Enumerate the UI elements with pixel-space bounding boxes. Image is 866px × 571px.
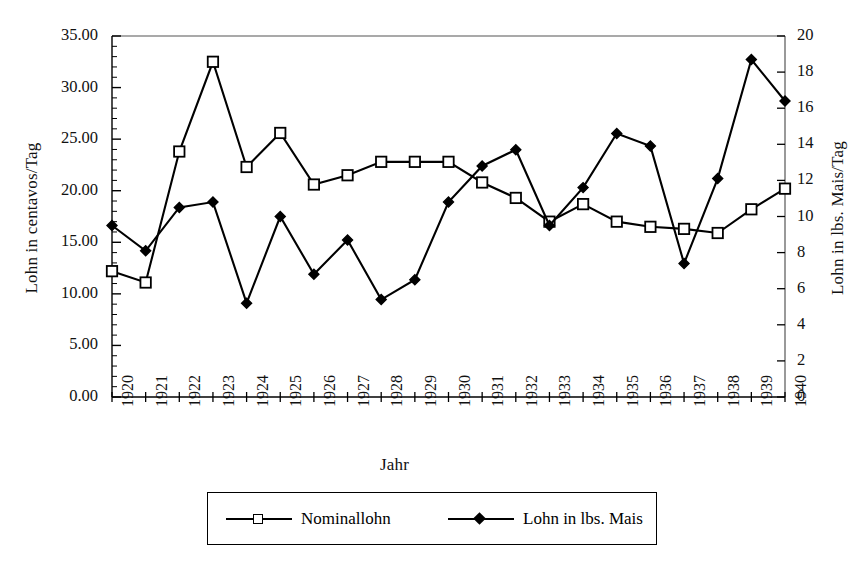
- legend-marker-filled-diamond-icon: [448, 512, 514, 526]
- x-axis-tick-label: 1924: [254, 375, 272, 407]
- y-axis-right-tick-label: 12: [797, 169, 837, 189]
- x-axis-tick-label: 1923: [220, 375, 238, 407]
- x-axis-tick-label: 1940: [792, 375, 810, 407]
- x-axis-tick-label: 1928: [388, 375, 406, 407]
- y-axis-left-tick-label: 25.00: [26, 128, 98, 148]
- x-axis-tick-label: 1925: [287, 375, 305, 407]
- y-axis-right-tick-label: 4: [797, 314, 837, 334]
- x-axis-tick-label: 1934: [590, 375, 608, 407]
- y-axis-right-tick-label: 6: [797, 278, 837, 298]
- x-axis-tick-label: 1929: [422, 375, 440, 407]
- legend-item-nominallohn: Nominallohn: [226, 509, 391, 529]
- legend-label: Nominallohn: [301, 509, 391, 529]
- x-axis-tick-label: 1926: [321, 375, 339, 407]
- y-axis-right-tick-label: 16: [797, 97, 837, 117]
- x-axis-tick-label: 1920: [119, 375, 137, 407]
- y-axis-left-tick-label: 30.00: [26, 77, 98, 97]
- x-axis-tick-label: 1922: [186, 375, 204, 407]
- y-axis-right-tick-label: 2: [797, 350, 837, 370]
- y-axis-right-tick-label: 20: [797, 25, 837, 45]
- y-axis-left-tick-label: 0.00: [26, 386, 98, 406]
- y-axis-right-tick-label: 14: [797, 133, 837, 153]
- x-axis-tick-label: 1937: [691, 375, 709, 407]
- x-axis-tick-label: 1935: [624, 375, 642, 407]
- x-axis-tick-label: 1921: [153, 375, 171, 407]
- x-axis-tick-label: 1933: [556, 375, 574, 407]
- chart-legend: Nominallohn Lohn in lbs. Mais: [207, 492, 657, 545]
- y-axis-left-tick-label: 15.00: [26, 231, 98, 251]
- y-axis-left-title: Lohn in centavos/Tag: [22, 88, 42, 348]
- x-axis-tick-label: 1927: [355, 375, 373, 407]
- legend-marker-open-square-icon: [226, 512, 292, 526]
- x-axis-tick-label: 1931: [489, 375, 507, 407]
- x-axis-tick-label: 1936: [657, 375, 675, 407]
- legend-item-lohn-in-lbs-mais: Lohn in lbs. Mais: [448, 509, 643, 529]
- chart-figure: Lohn in centavos/Tag Lohn in lbs. Mais/T…: [0, 0, 866, 571]
- x-axis-tick-label: 1932: [523, 375, 541, 407]
- y-axis-left-tick-label: 35.00: [26, 25, 98, 45]
- plot-area: [0, 0, 866, 571]
- y-axis-left-tick-label: 10.00: [26, 283, 98, 303]
- x-axis-tick-label: 1939: [758, 375, 776, 407]
- x-axis-title: Jahr: [380, 455, 409, 475]
- y-axis-left-tick-label: 5.00: [26, 334, 98, 354]
- y-axis-right-tick-label: 10: [797, 206, 837, 226]
- legend-label: Lohn in lbs. Mais: [523, 509, 643, 529]
- y-axis-right-tick-label: 18: [797, 61, 837, 81]
- x-axis-tick-label: 1930: [456, 375, 474, 407]
- y-axis-right-tick-label: 8: [797, 242, 837, 262]
- x-axis-tick-label: 1938: [725, 375, 743, 407]
- y-axis-left-tick-label: 20.00: [26, 180, 98, 200]
